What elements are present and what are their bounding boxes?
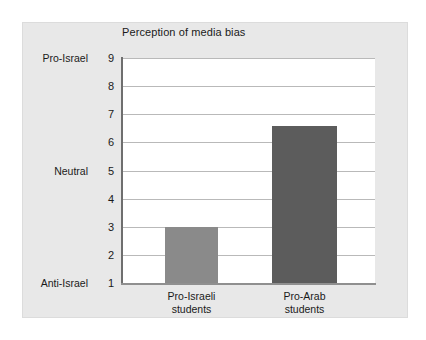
x-axis-label-pro-arab: Pro-Arabstudents [255, 290, 355, 316]
y-tick-label-9: 9 [94, 52, 114, 64]
gridline-2 [122, 255, 375, 256]
y-axis-label-pro-israel: Pro-Israel [0, 52, 88, 64]
plot-area [122, 58, 375, 283]
chart-title: Perception of media bias [122, 26, 245, 38]
gridline-8 [122, 86, 375, 87]
gridlines [122, 58, 375, 283]
y-tick-label-3: 3 [94, 221, 114, 233]
y-axis-label-neutral: Neutral [0, 165, 88, 177]
x-label-line-2: students [255, 303, 355, 316]
x-label-line-2: students [142, 303, 242, 316]
y-tick-label-8: 8 [94, 80, 114, 92]
bar-pro-arab [272, 126, 337, 284]
y-tick-label-7: 7 [94, 108, 114, 120]
y-axis-label-anti-israel: Anti-Israel [0, 277, 88, 289]
x-label-line-1: Pro-Israeli [142, 290, 242, 303]
y-tick-label-6: 6 [94, 136, 114, 148]
x-axis-label-pro-israeli: Pro-Israelistudents [142, 290, 242, 316]
y-tick-label-5: 5 [94, 165, 114, 177]
gridline-9 [122, 58, 375, 59]
chart-figure: Perception of media bias 123456789 Pro-I… [0, 0, 426, 340]
y-axis-line [121, 57, 123, 284]
gridline-6 [122, 142, 375, 143]
y-tick-label-4: 4 [94, 193, 114, 205]
y-tick-label-1: 1 [94, 277, 114, 289]
gridline-4 [122, 199, 375, 200]
x-axis-line [121, 283, 376, 285]
y-tick-label-2: 2 [94, 249, 114, 261]
gridline-7 [122, 114, 375, 115]
gridline-3 [122, 227, 375, 228]
gridline-5 [122, 171, 375, 172]
x-label-line-1: Pro-Arab [255, 290, 355, 303]
bar-pro-israeli [165, 227, 218, 283]
